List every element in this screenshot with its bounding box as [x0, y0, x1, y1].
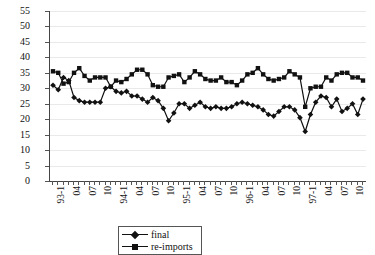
x-axis-tick [304, 181, 305, 185]
data-point-square [356, 75, 360, 79]
x-axis-tick-label: 04 [135, 186, 145, 196]
x-axis-tick [57, 181, 58, 185]
y-axis-tick [45, 88, 49, 89]
x-axis-tick [73, 181, 74, 185]
y-axis-tick-label: 20 [2, 114, 30, 124]
x-axis-tick [168, 181, 169, 185]
data-point-diamond [245, 101, 251, 107]
data-point-square [145, 72, 149, 76]
x-axis-tick-label: 04 [198, 186, 208, 196]
data-point-square [361, 78, 365, 82]
data-point-diamond [92, 99, 98, 105]
data-point-square [198, 72, 202, 76]
data-point-square [98, 75, 102, 79]
x-axis-tick-label: 97-1 [308, 186, 318, 203]
x-axis-tick [52, 181, 53, 185]
x-axis-tick-label: 07 [340, 186, 350, 196]
data-point-diamond [76, 98, 82, 104]
data-point-square [172, 74, 176, 78]
x-axis-tick [84, 181, 85, 185]
data-point-square [229, 80, 233, 84]
y-axis-tick-label: 40 [2, 52, 30, 62]
data-point-square [109, 85, 113, 89]
data-point-square [61, 81, 65, 85]
data-point-square [82, 74, 86, 78]
y-axis-labels: 0510152025303540455055 [0, 0, 30, 200]
legend-label-re-imports: re-imports [148, 241, 193, 252]
x-axis-tick [94, 181, 95, 185]
data-point-square [219, 75, 223, 79]
data-point-square [261, 72, 265, 76]
data-point-square [72, 71, 76, 75]
x-axis-tick [173, 181, 174, 185]
x-axis-tick-label: 04 [261, 186, 271, 196]
data-point-square [124, 77, 128, 81]
x-axis-tick [105, 181, 106, 185]
data-point-square [345, 71, 349, 75]
data-point-diamond [308, 112, 314, 118]
data-point-square [256, 66, 260, 70]
series-layer [50, 11, 366, 181]
data-point-diamond [140, 96, 146, 102]
data-point-square [266, 77, 270, 81]
y-axis-tick-label: 30 [2, 83, 30, 93]
data-point-diamond [287, 104, 293, 110]
data-point-square [250, 71, 254, 75]
data-point-square [335, 72, 339, 76]
data-point-square [314, 85, 318, 89]
x-axis-tick-label: 04 [72, 186, 82, 196]
x-axis-tick [199, 181, 200, 185]
data-point-square [77, 66, 81, 70]
data-point-square [161, 85, 165, 89]
data-point-diamond [234, 101, 240, 107]
x-axis-tick-label: 07 [88, 186, 98, 196]
x-axis-tick-label: 10 [103, 186, 113, 196]
x-axis-tick [351, 181, 352, 185]
data-point-square [166, 75, 170, 79]
data-point-square [156, 85, 160, 89]
data-point-square [235, 83, 239, 87]
x-axis-tick-label: 10 [166, 186, 176, 196]
data-point-square [282, 75, 286, 79]
data-point-square [103, 75, 107, 79]
x-axis-tick [183, 181, 184, 185]
y-axis-tick [45, 135, 49, 136]
x-axis-tick-label: 10 [355, 186, 365, 196]
data-point-square [277, 77, 281, 81]
data-point-square [56, 71, 60, 75]
x-axis-tick [225, 181, 226, 185]
data-point-square [140, 68, 144, 72]
data-point-square [245, 72, 249, 76]
x-axis-tick [68, 181, 69, 185]
x-axis-tick [120, 181, 121, 185]
data-point-diamond [239, 99, 245, 105]
x-axis-labels: 93-104071094-104071095-104071096-1040710… [49, 186, 365, 226]
y-axis-tick [45, 73, 49, 74]
x-axis-tick [136, 181, 137, 185]
x-axis-tick [320, 181, 321, 185]
x-axis-tick [257, 181, 258, 185]
data-point-square [350, 75, 354, 79]
x-axis-tick-label: 07 [214, 186, 224, 196]
x-axis-tick-label: 07 [277, 186, 287, 196]
y-axis-tick [45, 166, 49, 167]
x-axis-tick [299, 181, 300, 185]
x-axis-tick [231, 181, 232, 185]
x-axis-tick [283, 181, 284, 185]
data-point-square [271, 78, 275, 82]
x-axis-tick [78, 181, 79, 185]
data-point-square [287, 69, 291, 73]
x-axis-tick [89, 181, 90, 185]
x-axis-tick-label: 10 [229, 186, 239, 196]
x-axis-tick [141, 181, 142, 185]
x-axis-tick-label: 10 [292, 186, 302, 196]
x-axis-tick [330, 181, 331, 185]
x-axis-tick [204, 181, 205, 185]
data-point-square [319, 85, 323, 89]
chart-legend: final re-imports [118, 226, 202, 255]
data-point-diamond [208, 106, 214, 112]
data-point-square [67, 80, 71, 84]
data-point-diamond [360, 96, 366, 102]
x-axis-tick-label: 96-1 [245, 186, 255, 203]
data-point-square [93, 75, 97, 79]
